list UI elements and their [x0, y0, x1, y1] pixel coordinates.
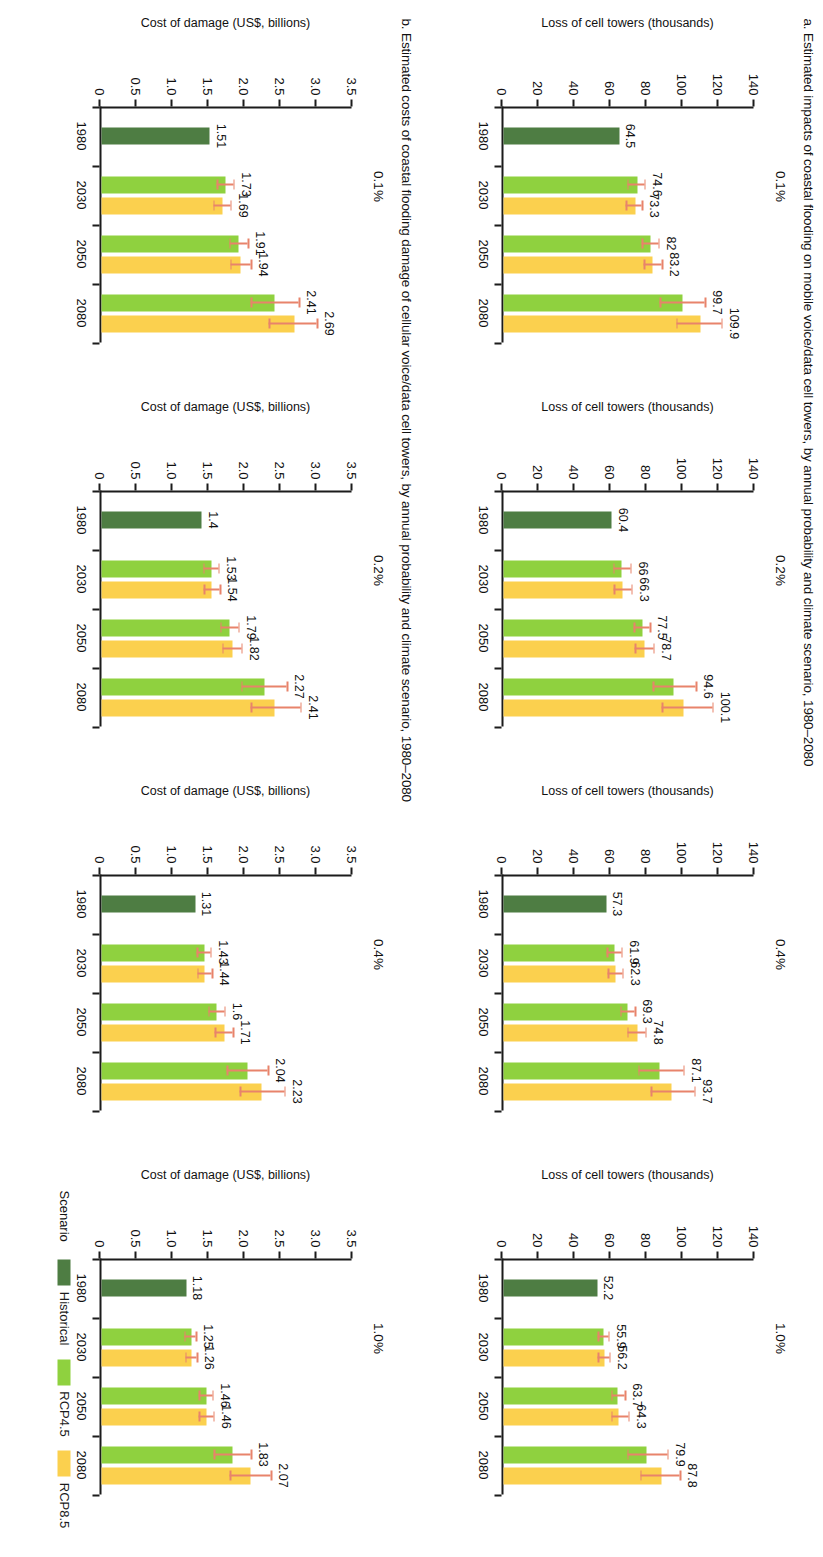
bar-rcp45 [101, 1446, 233, 1463]
y-axis-tick [644, 99, 646, 106]
y-axis-line [501, 1258, 753, 1260]
y-axis-tick-label: 20 [530, 465, 545, 479]
error-bar-cap [631, 584, 632, 594]
bar-rcp85 [101, 1408, 206, 1425]
plot-area: 020406080100120140Loss of cell towers (t… [501, 874, 753, 1110]
error-bar-cap [213, 200, 214, 210]
bar-value-label: 1.26 [201, 1345, 215, 1369]
error-bar-cap [638, 1065, 639, 1075]
error-bar [229, 242, 248, 243]
x-axis-tick [92, 549, 99, 551]
bar-rcp85 [503, 581, 622, 598]
bar-value-label: 1.69 [235, 193, 249, 217]
y-axis-line [99, 106, 351, 108]
bar-value-label: 2.27 [291, 674, 305, 698]
y-axis-tick-label: 3.5 [344, 461, 359, 479]
x-axis-tick [92, 106, 99, 108]
x-axis-tick [92, 1317, 99, 1319]
error-bar-cap [611, 1411, 612, 1421]
chart-panel-b-0-1: 0.1%00.51.01.52.02.53.03.5Cost of damage… [39, 10, 391, 362]
x-axis-tick [494, 1494, 501, 1496]
y-axis-tick [98, 1251, 100, 1258]
legend-swatch-historical [57, 1259, 70, 1285]
error-bar-cap [208, 1006, 209, 1016]
x-axis-tick [92, 165, 99, 167]
x-axis-tick [494, 1110, 501, 1112]
bar-value-label: 1.31 [198, 891, 212, 915]
y-axis-tick [572, 99, 574, 106]
y-axis-title: Cost of damage (US$, billions) [140, 783, 310, 797]
bar-hist [503, 895, 606, 912]
x-axis-tick [92, 1435, 99, 1437]
y-axis-tick-label: 80 [638, 81, 653, 95]
x-axis-tick-label: 2080 [475, 1066, 490, 1095]
y-axis-tick [716, 99, 718, 106]
error-bar-cap [198, 1390, 199, 1400]
error-bar-cap [185, 1352, 186, 1362]
y-axis-tick-label: 40 [566, 1233, 581, 1247]
error-bar-cap [614, 584, 615, 594]
error-bar-cap [239, 1086, 240, 1096]
y-axis-title: Loss of cell towers (thousands) [541, 399, 713, 413]
y-axis-tick [500, 1251, 502, 1258]
bar-rcp45 [101, 1328, 191, 1345]
legend-swatch-rcp45 [57, 1359, 70, 1385]
bar-rcp45 [503, 560, 622, 577]
y-axis-line [501, 490, 753, 492]
bar-rcp45 [503, 294, 682, 311]
bar-hist [503, 127, 619, 144]
y-axis-tick [206, 99, 208, 106]
error-bar-cap [606, 947, 607, 957]
y-axis-tick-label: 1.5 [200, 77, 215, 95]
error-bar-cap [211, 968, 212, 978]
x-axis-tick-label: 2050 [475, 239, 490, 268]
x-axis-tick-label: 2080 [73, 1066, 88, 1095]
y-axis-title: Cost of damage (US$, billions) [140, 15, 310, 29]
bar-value-label: 1.46 [218, 1404, 232, 1428]
legend-item-rcp85[interactable]: RCP8.5 [56, 1450, 71, 1528]
y-axis-tick [314, 99, 316, 106]
y-axis-title: Loss of cell towers (thousands) [541, 15, 713, 29]
y-axis-tick [278, 867, 280, 874]
error-bar [611, 1415, 628, 1416]
y-axis-tick [314, 483, 316, 490]
y-axis-tick [350, 867, 352, 874]
y-axis-tick [314, 1251, 316, 1258]
x-axis-tick [494, 1435, 501, 1437]
x-axis-tick-label: 1980 [475, 889, 490, 918]
error-bar-cap [661, 259, 662, 269]
y-axis-tick [98, 867, 100, 874]
bar-rcp45 [503, 1003, 628, 1020]
bar-value-label: 1.54 [224, 577, 238, 601]
x-axis-tick [92, 342, 99, 344]
y-axis-title: Cost of damage (US$, billions) [140, 399, 310, 413]
y-axis-tick-label: 40 [566, 465, 581, 479]
x-axis-tick [494, 1258, 501, 1260]
legend-item-rcp45[interactable]: RCP4.5 [56, 1359, 71, 1437]
error-bar-cap [216, 179, 217, 189]
x-axis-tick-label: 2080 [73, 682, 88, 711]
y-axis-tick-label: 60 [602, 81, 617, 95]
y-axis-tick-label: 100 [674, 73, 689, 95]
error-bar-cap [241, 681, 242, 691]
error-bar-cap [627, 1449, 628, 1459]
y-axis-tick-label: 60 [602, 465, 617, 479]
error-bar-cap [268, 318, 269, 328]
x-axis-tick-label: 1980 [73, 121, 88, 150]
x-axis-tick [494, 608, 501, 610]
x-axis-tick [494, 933, 501, 935]
y-axis-tick [134, 483, 136, 490]
y-axis-title: Loss of cell towers (thousands) [541, 783, 713, 797]
legend-item-historical[interactable]: Historical [56, 1259, 71, 1344]
error-bar-cap [219, 584, 220, 594]
error-bar [606, 951, 620, 952]
error-bar-cap [650, 1086, 651, 1096]
error-bar-cap [653, 643, 654, 653]
y-axis-tick-label: 140 [746, 841, 761, 863]
error-bar [625, 204, 641, 205]
x-axis-tick [494, 667, 501, 669]
y-axis-tick [608, 1251, 610, 1258]
y-axis-tick-label: 80 [638, 1233, 653, 1247]
error-bar-cap [250, 702, 251, 712]
x-axis-tick [92, 1051, 99, 1053]
